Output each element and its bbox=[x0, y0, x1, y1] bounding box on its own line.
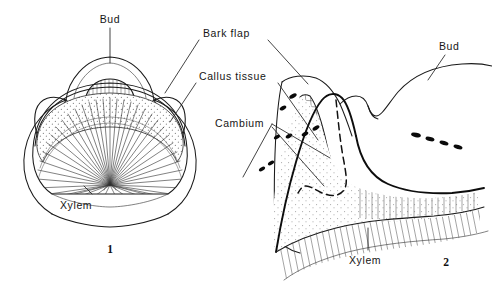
figure-background bbox=[0, 0, 492, 287]
label-xylem-right: Xylem bbox=[349, 254, 381, 266]
figure-container: Bud Xylem 1 bbox=[0, 0, 492, 287]
figure-number-2: 2 bbox=[443, 256, 449, 268]
bud-graft-diagram: Bud Xylem 1 bbox=[0, 0, 492, 287]
label-bark-flap: Bark flap bbox=[203, 27, 250, 39]
label-xylem-left: Xylem bbox=[60, 199, 92, 211]
label-cambium: Cambium bbox=[215, 117, 264, 129]
figure-number-1: 1 bbox=[107, 243, 113, 255]
label-callus-tissue: Callus tissue bbox=[199, 70, 266, 82]
label-bud-right: Bud bbox=[439, 40, 459, 52]
label-bud-left: Bud bbox=[100, 13, 120, 25]
